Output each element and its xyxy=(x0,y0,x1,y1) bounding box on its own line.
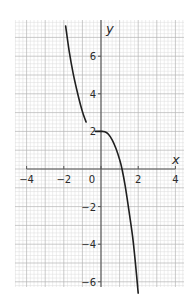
y-tick-label: −2 xyxy=(81,202,96,213)
y-tick-label: −6 xyxy=(81,277,96,288)
y-axis-label: y xyxy=(105,21,114,36)
y-tick-label: −4 xyxy=(81,239,96,250)
x-tick-label: 4 xyxy=(172,174,178,185)
x-tick-label: 2 xyxy=(135,174,141,185)
curve-right-branch xyxy=(95,131,138,293)
x-axis-label: x xyxy=(171,152,180,167)
grid-minor-lines xyxy=(15,20,184,287)
curves xyxy=(66,26,139,293)
x-tick-label: −4 xyxy=(19,174,34,185)
function-graph: −4−2024642−2−4−6 x y xyxy=(0,0,190,303)
curve-left-branch xyxy=(66,26,86,122)
y-tick-label: 4 xyxy=(90,89,96,100)
x-tick-label: 0 xyxy=(89,174,95,185)
y-tick-label: 6 xyxy=(90,51,96,62)
x-tick-label: −2 xyxy=(56,174,71,185)
